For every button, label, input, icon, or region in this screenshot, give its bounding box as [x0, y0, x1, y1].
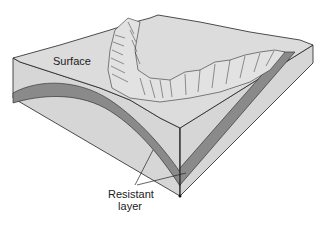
resistant-layer-label: Resistant layer — [108, 188, 152, 212]
block-diagram-graphic — [0, 0, 323, 226]
surface-label: Surface — [53, 55, 91, 67]
resistant-label-line1: Resistant — [108, 188, 152, 200]
block-diagram: Surface Resistant layer — [0, 0, 323, 226]
bottom-vertex — [179, 195, 182, 198]
resistant-label-line2: layer — [108, 200, 152, 212]
